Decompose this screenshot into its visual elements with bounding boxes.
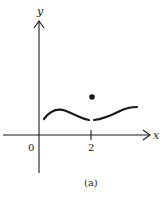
- figure-caption: (a): [84, 177, 98, 188]
- origin-label: 0: [28, 142, 34, 153]
- graph-figure: y x 0 2 (a): [0, 0, 167, 203]
- filled-point: [89, 94, 95, 100]
- curve-right-piece: [94, 107, 137, 120]
- curve-left-piece: [44, 110, 89, 120]
- x-axis-label: x: [153, 129, 160, 142]
- y-axis-label: y: [36, 5, 44, 18]
- x-tick-label-2: 2: [88, 142, 94, 153]
